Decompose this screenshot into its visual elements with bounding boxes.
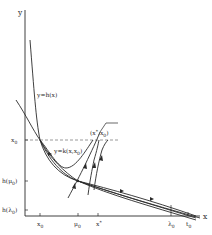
trajectory-3 <box>94 140 108 190</box>
y-axis-label: y <box>17 8 23 17</box>
arrow-icon <box>83 163 87 169</box>
arrow-icon <box>150 197 154 201</box>
x-tick-label-x0: x0 <box>37 220 43 229</box>
x-tick-label-lambda0: λ0 <box>168 220 175 229</box>
point-label: (x*,x0) <box>90 129 109 138</box>
k-curve-label: y=k(x,x0) <box>53 147 82 156</box>
y-tick-label-h-lambda0: h(λ0) <box>2 206 17 215</box>
h-curve-label: y=h(x) <box>36 91 57 99</box>
diagram-canvas: y x x0 h(μ0) h(λ0) x0 μ0 x* λ0 t0 y=h(x)… <box>0 0 212 235</box>
x-axis-label: x <box>203 212 208 221</box>
bundle-curve-2 <box>78 181 196 218</box>
y-tick-label-h-mu0: h(μ0) <box>2 177 17 186</box>
h-curve <box>30 40 200 218</box>
x-tick-label-mu0: μ0 <box>74 220 81 229</box>
y-tick-label-x0: x0 <box>11 136 17 145</box>
x-tick-label-xstar: x* <box>96 220 102 228</box>
intersection-point <box>77 180 79 182</box>
x-tick-label-t0: t0 <box>186 220 191 229</box>
